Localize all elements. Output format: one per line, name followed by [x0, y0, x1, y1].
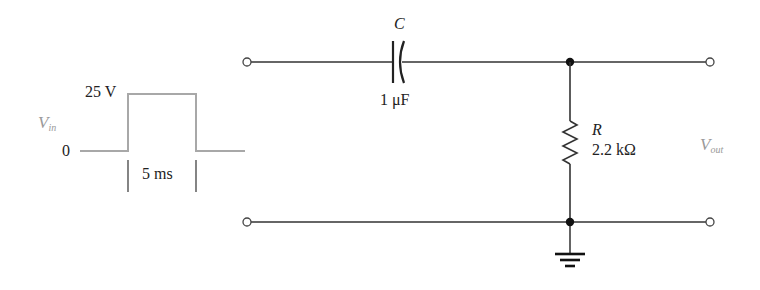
low-level-label: 0: [62, 143, 70, 159]
capacitor-designator: C: [394, 16, 405, 32]
high-level-label: 25 V: [85, 84, 116, 100]
vin-label: Vin: [38, 114, 56, 133]
vin-symbol: V: [38, 113, 48, 132]
output-terminal-bottom: [706, 218, 714, 226]
vout-symbol: V: [700, 135, 710, 154]
ground-icon: [555, 222, 585, 266]
pulse-width-label: 5 ms: [142, 166, 173, 182]
vout-subscript: out: [710, 144, 723, 155]
capacitor-value: 1 μF: [380, 92, 409, 108]
resistor-symbol: [563, 62, 577, 222]
resistor-designator: R: [592, 122, 602, 138]
output-terminal-top: [706, 58, 714, 66]
rc-circuit-diagram: [0, 0, 760, 290]
vout-label: Vout: [700, 136, 723, 155]
input-terminal-top: [243, 58, 251, 66]
resistor-value: 2.2 kΩ: [592, 142, 636, 158]
vin-subscript: in: [48, 122, 56, 133]
input-pulse-waveform: [80, 94, 245, 151]
input-terminal-bottom: [243, 218, 251, 226]
